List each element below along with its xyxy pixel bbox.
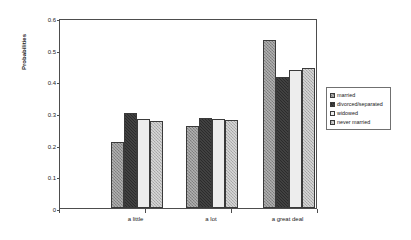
bar: [263, 40, 276, 208]
legend-swatch: [330, 111, 335, 116]
x-tick-mark: [231, 209, 232, 213]
x-tick-label: a great deal: [272, 216, 304, 222]
y-tick-label: 0: [53, 207, 56, 213]
plot-area: 00.10.20.30.40.50.6: [59, 19, 317, 209]
chart-legend: marrieddivorced/separatedwidowednever ma…: [326, 87, 391, 130]
bar: [150, 121, 163, 208]
bar: [137, 119, 150, 208]
bar: [199, 118, 212, 208]
x-tick-label: a lot: [205, 216, 216, 222]
bar: [111, 142, 124, 208]
bar-series-container: [60, 20, 316, 208]
legend-swatch: [330, 93, 335, 98]
bar-group: [186, 20, 238, 208]
legend-label: never married: [337, 118, 370, 126]
bar-group: [111, 20, 163, 208]
bar: [289, 70, 302, 208]
bar: [276, 77, 289, 208]
y-tick-label: 0.3: [48, 112, 56, 118]
legend-item[interactable]: divorced/separated: [330, 100, 387, 108]
legend-label: divorced/separated: [337, 100, 383, 108]
bar: [225, 120, 238, 208]
x-tick-mark: [317, 209, 318, 213]
bar: [186, 126, 199, 208]
bar: [124, 113, 137, 208]
x-tick-mark: [59, 209, 60, 213]
y-tick-label: 0.4: [48, 80, 56, 86]
y-axis-title: Probabilities: [18, 12, 30, 92]
y-tick-label: 0.6: [48, 17, 56, 23]
bar: [212, 119, 225, 208]
bar: [302, 68, 315, 208]
legend-label: married: [337, 91, 355, 99]
x-tick-label: a little: [128, 216, 144, 222]
y-tick-label: 0.2: [48, 144, 56, 150]
legend-swatch: [330, 102, 335, 107]
bar-group: [263, 20, 315, 208]
legend-swatch: [330, 120, 335, 125]
chart-figure: Probabilities 00.10.20.30.40.50.6 a litt…: [0, 0, 411, 240]
legend-item[interactable]: married: [330, 91, 387, 99]
legend-label: widowed: [337, 109, 358, 117]
x-tick-mark: [145, 209, 146, 213]
legend-item[interactable]: widowed: [330, 109, 387, 117]
legend-item[interactable]: never married: [330, 118, 387, 126]
y-tick-label: 0.1: [48, 175, 56, 181]
y-tick-label: 0.5: [48, 49, 56, 55]
